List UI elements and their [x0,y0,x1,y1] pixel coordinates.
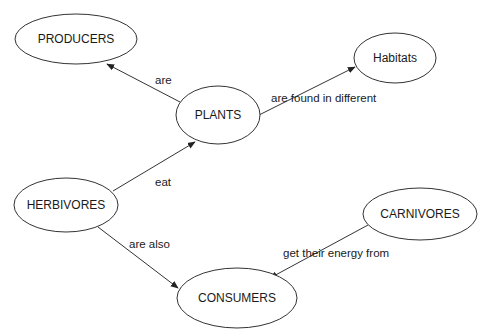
node-producers[interactable]: PRODUCERS [15,14,137,64]
node-label: PLANTS [195,108,242,122]
nodes-layer: PRODUCERSPLANTSHabitatsHERBIVORESCARNIVO… [14,14,477,328]
edge-plants-to-producers: are [107,64,180,102]
node-label: HERBIVORES [27,198,106,212]
edge-herbivores-to-consumers: are also [98,227,178,288]
arrow-connector [113,142,195,191]
edge-label: get their energy from [283,247,389,259]
node-label: CARNIVORES [380,207,459,221]
node-label: CONSUMERS [198,291,276,305]
node-habitats[interactable]: Habitats [354,33,436,83]
edge-carnivores-to-consumers: get their energy from [270,225,389,278]
node-herbivores[interactable]: HERBIVORES [14,178,118,232]
node-plants[interactable]: PLANTS [176,86,260,144]
node-label: Habitats [373,51,417,65]
node-consumers[interactable]: CONSUMERS [177,268,297,328]
arrow-connector [98,227,178,288]
node-label: PRODUCERS [38,32,115,46]
edge-label: are also [129,238,170,250]
edge-label: are found in different [271,92,377,104]
arrow-connector [259,67,355,115]
concept-map-canvas: areare found in differenteatare alsoget … [0,0,494,336]
edge-label: eat [155,176,172,188]
edge-herbivores-to-plants: eat [113,142,195,191]
edge-plants-to-habitats: are found in different [259,67,377,115]
node-carnivores[interactable]: CARNIVORES [363,188,477,240]
edge-label: are [155,74,172,86]
